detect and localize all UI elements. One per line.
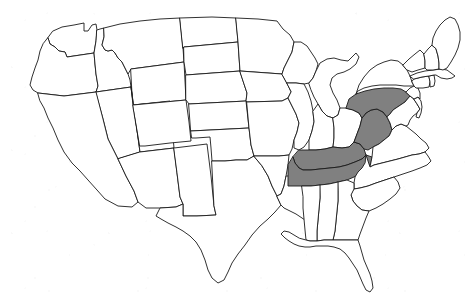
- state-fl: Florida: [281, 231, 373, 292]
- state-wy: Wyoming: [131, 62, 186, 105]
- us-states-map: WashingtonOregonIdahoMontanaWyomingNevad…: [0, 0, 474, 301]
- state-ri: Rhode Island: [429, 75, 435, 87]
- state-ms: Mississippi: [302, 185, 320, 241]
- us-map-figure: WashingtonOregonIdahoMontanaWyomingNevad…: [0, 0, 474, 301]
- state-co: Colorado: [133, 100, 191, 146]
- state-ks: Kansas: [189, 101, 249, 131]
- state-mo: Missouri: [247, 98, 299, 156]
- state-vt: Vermont: [403, 50, 425, 72]
- state-sd: South Dakota: [184, 42, 240, 75]
- states-layer: WashingtonOregonIdahoMontanaWyomingNevad…: [30, 17, 460, 292]
- state-ne: Nebraska: [186, 71, 247, 104]
